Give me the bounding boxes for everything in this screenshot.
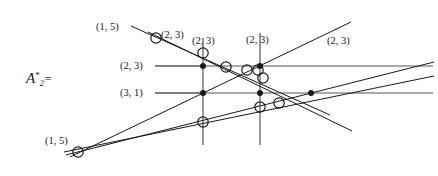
- diagonal-lines-group: [64, 22, 434, 157]
- filled-intersection-point: [308, 90, 314, 96]
- filled-intersection-point: [200, 90, 206, 96]
- horizontal-lines-group: [155, 66, 433, 93]
- diagonal-line: [66, 62, 434, 155]
- filled-intersection-point: [257, 90, 263, 96]
- filled-intersection-point: [257, 63, 263, 69]
- open-intersection-point: [221, 62, 231, 72]
- open-intersection-point: [242, 65, 252, 75]
- diagonal-line: [70, 22, 351, 157]
- figure-canvas: A*2= (1, 5) (2, 3) (2, 3) (2, 3) (2, 3) …: [0, 0, 438, 176]
- open-intersection-point: [198, 48, 208, 58]
- open-intersection-point: [258, 73, 268, 83]
- diagonal-line: [64, 76, 434, 152]
- open-intersection-point: [198, 117, 208, 127]
- open-intersection-point: [151, 33, 161, 43]
- open-intersection-points-group: [73, 33, 284, 157]
- diagonal-line: [148, 32, 352, 131]
- line-arrangement-diagram: [0, 0, 438, 176]
- open-intersection-point: [255, 102, 265, 112]
- open-intersection-point: [274, 98, 284, 108]
- filled-intersection-point: [200, 63, 206, 69]
- open-intersection-point: [73, 147, 83, 157]
